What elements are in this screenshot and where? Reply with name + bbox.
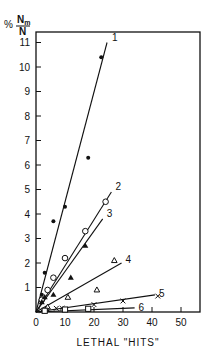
plot-border bbox=[36, 32, 200, 312]
data-series: 123456 bbox=[36, 32, 165, 314]
line-label: 3 bbox=[107, 208, 113, 219]
x-tick-label: 20 bbox=[88, 317, 100, 328]
y-axis-label: % Nm N bbox=[4, 14, 30, 37]
axis-ticks: 123456789101101020304050 bbox=[19, 37, 187, 328]
fit-line bbox=[36, 43, 107, 313]
series-1: 1 bbox=[36, 32, 118, 313]
chart: % Nm N 123456789101101020304050 123456 L… bbox=[0, 0, 205, 354]
y-tick-label: 6 bbox=[24, 160, 30, 171]
y-tick-label: 10 bbox=[19, 62, 31, 73]
y-label-percent: % bbox=[4, 19, 13, 30]
y-tick-label: 5 bbox=[24, 184, 30, 195]
y-label-numerator: Nm bbox=[17, 14, 30, 26]
line-label: 2 bbox=[115, 181, 121, 192]
y-tick-label: 11 bbox=[20, 37, 31, 48]
fit-line bbox=[36, 192, 111, 312]
y-tick-label: 1 bbox=[24, 282, 30, 293]
x-tick-label: 10 bbox=[59, 317, 71, 328]
line-label: 5 bbox=[159, 288, 165, 299]
x-tick-label: 30 bbox=[117, 317, 129, 328]
plot-frame bbox=[36, 32, 200, 312]
x-tick-label: 40 bbox=[146, 317, 158, 328]
y-label-denominator: N bbox=[19, 26, 26, 37]
series-3: 3 bbox=[36, 208, 113, 312]
series-2: 2 bbox=[36, 181, 121, 312]
x-tick-label: 50 bbox=[175, 317, 187, 328]
y-tick-label: 3 bbox=[24, 233, 30, 244]
y-tick-label: 4 bbox=[24, 209, 30, 220]
y-tick-label: 9 bbox=[24, 86, 30, 97]
y-tick-label: 7 bbox=[24, 135, 30, 146]
series-4: 4 bbox=[36, 254, 132, 312]
x-axis-label: LETHAL "HITS" bbox=[76, 337, 159, 348]
x-tick-label: 0 bbox=[33, 317, 39, 328]
y-tick-label: 2 bbox=[24, 258, 30, 269]
line-label: 4 bbox=[126, 254, 132, 265]
line-label: 1 bbox=[112, 32, 118, 43]
y-tick-label: 8 bbox=[24, 111, 30, 122]
line-label: 6 bbox=[139, 302, 145, 313]
